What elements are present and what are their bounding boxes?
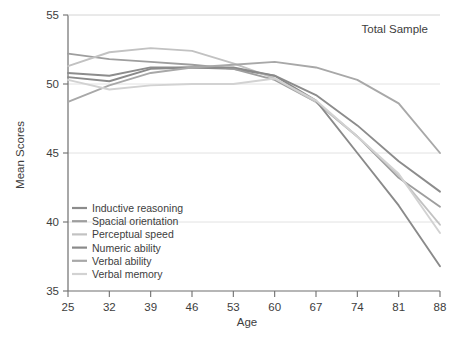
gridlines xyxy=(68,15,440,222)
x-tick-label: 88 xyxy=(434,301,447,313)
x-tick-label: 67 xyxy=(310,301,323,313)
y-tick-label: 50 xyxy=(46,78,59,90)
x-tick-label: 60 xyxy=(268,301,281,313)
legend: Inductive reasoningSpacial orientationPe… xyxy=(72,202,183,280)
y-tick-label: 40 xyxy=(46,216,59,228)
y-tick-label: 55 xyxy=(46,9,59,21)
chart-container: 3540455055 25323946536067748188 Mean Sco… xyxy=(0,0,452,346)
chart-annotation: Total Sample xyxy=(362,23,428,35)
x-tick-label: 74 xyxy=(351,301,364,313)
x-tick-label: 53 xyxy=(227,301,240,313)
x-tick-label: 32 xyxy=(103,301,116,313)
x-tick-label: 81 xyxy=(392,301,405,313)
y-axis-ticks: 3540455055 xyxy=(46,9,68,297)
legend-label-5[interactable]: Verbal memory xyxy=(92,268,163,280)
legend-label-2[interactable]: Perceptual speed xyxy=(92,228,174,240)
x-axis-title: Age xyxy=(237,316,257,328)
line-chart: 3540455055 25323946536067748188 Mean Sco… xyxy=(0,0,452,346)
y-tick-label: 35 xyxy=(46,285,59,297)
x-axis-ticks: 25323946536067748188 xyxy=(62,291,447,313)
legend-label-1[interactable]: Spacial orientation xyxy=(92,215,179,227)
series-line-0 xyxy=(68,67,440,191)
y-tick-label: 45 xyxy=(46,147,59,159)
x-tick-label: 39 xyxy=(144,301,157,313)
legend-label-4[interactable]: Verbal ability xyxy=(92,255,152,267)
x-tick-label: 25 xyxy=(62,301,75,313)
legend-label-0[interactable]: Inductive reasoning xyxy=(92,202,183,214)
y-axis-title: Mean Scores xyxy=(14,121,26,189)
legend-label-3[interactable]: Numeric ability xyxy=(92,242,162,254)
x-tick-label: 46 xyxy=(186,301,199,313)
series-line-4 xyxy=(68,62,440,153)
